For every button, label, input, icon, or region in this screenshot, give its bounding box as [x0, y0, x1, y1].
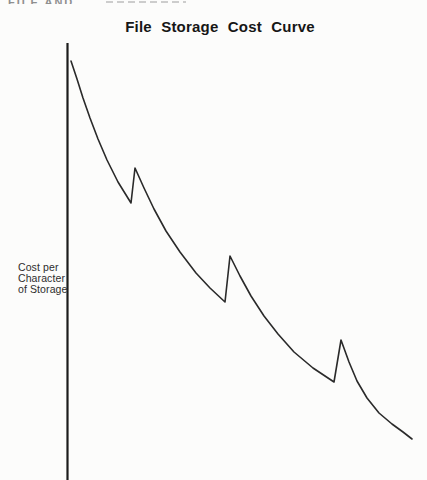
y-axis-label-line-3: of Storage	[18, 283, 68, 295]
cost-curve-chart: File Storage Cost Curve Cost per Charact…	[0, 0, 427, 480]
file-storage-cost-figure: FILE AND File Storage Cost Curve Cost pe…	[0, 0, 427, 480]
cost-curve-line	[71, 61, 412, 439]
chart-title: File Storage Cost Curve	[125, 18, 315, 35]
